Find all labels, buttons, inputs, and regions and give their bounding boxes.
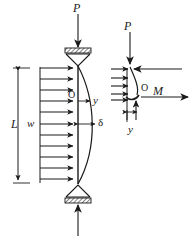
column-buckling-figure: P L w O y δ P O M y — [0, 0, 195, 243]
label-deflection-coord: y — [93, 95, 98, 106]
fbd-distributed-load-arrows — [111, 69, 128, 100]
label-axial-load-left: P — [73, 2, 80, 14]
distributed-load-arrows — [40, 67, 73, 183]
label-axial-load-right: P — [124, 20, 131, 32]
right-free-body-diagram — [111, 32, 188, 122]
label-distributed-load: w — [27, 118, 34, 129]
pin-support-bottom — [65, 185, 91, 203]
label-length: L — [11, 118, 18, 130]
left-diagram — [13, 14, 95, 236]
deflected-shape — [78, 66, 92, 184]
label-max-deflection: δ — [98, 117, 103, 128]
label-moment: M — [153, 85, 163, 97]
label-origin-left: O — [68, 90, 75, 100]
label-deflection-coord-right: y — [128, 124, 133, 135]
fbd-segment-curve — [126, 67, 139, 99]
pin-support-top — [65, 48, 91, 66]
label-origin-right: O — [141, 83, 148, 93]
